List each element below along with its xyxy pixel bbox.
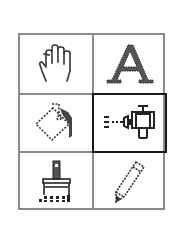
tool-pencil-button[interactable] (94, 153, 165, 210)
tool-palette (18, 33, 165, 210)
tool-spray-button[interactable] (92, 93, 167, 153)
tool-text-button[interactable] (94, 35, 165, 93)
tool-paint-bucket-button[interactable] (20, 95, 92, 151)
spray-can-icon (102, 103, 158, 143)
paint-bucket-icon (32, 100, 80, 146)
pencil-icon (110, 159, 150, 205)
paintbrush-icon (34, 159, 78, 205)
tool-hand-button[interactable] (20, 35, 92, 93)
tool-brush-button[interactable] (20, 153, 92, 210)
text-a-icon (104, 42, 156, 86)
hand-icon (36, 43, 76, 85)
